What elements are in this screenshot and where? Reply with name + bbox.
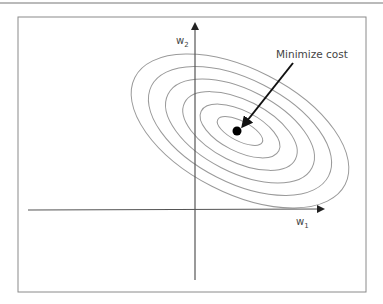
contour-diagram: w2 w1 Minimize cost xyxy=(0,0,383,304)
annotation-label: Minimize cost xyxy=(276,48,348,60)
minimum-point xyxy=(233,127,242,136)
